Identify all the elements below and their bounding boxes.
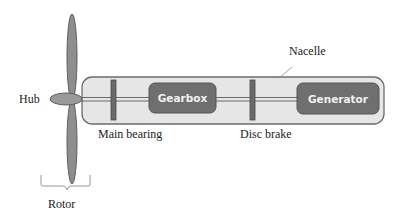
generator: Generator — [297, 83, 379, 114]
hub — [50, 93, 82, 105]
rotor-blade-upper — [67, 14, 77, 100]
main-bearing-label: Main bearing — [98, 127, 162, 142]
diagram-svg: Gearbox Generator — [0, 0, 404, 223]
disc-brake-label: Disc brake — [240, 127, 292, 142]
rotor-brace — [41, 175, 90, 190]
gearbox-label: Gearbox — [158, 92, 208, 104]
disc-brake — [250, 80, 255, 120]
generator-label: Generator — [308, 93, 369, 105]
gearbox: Gearbox — [149, 83, 216, 113]
rotor-label: Rotor — [48, 197, 75, 212]
hub-label: Hub — [19, 92, 40, 107]
rotor-blade-lower — [67, 100, 77, 184]
wind-turbine-diagram: Gearbox Generator Nacelle Hub Main beari… — [0, 0, 404, 223]
main-bearing — [111, 80, 116, 120]
nacelle-label: Nacelle — [289, 44, 326, 59]
